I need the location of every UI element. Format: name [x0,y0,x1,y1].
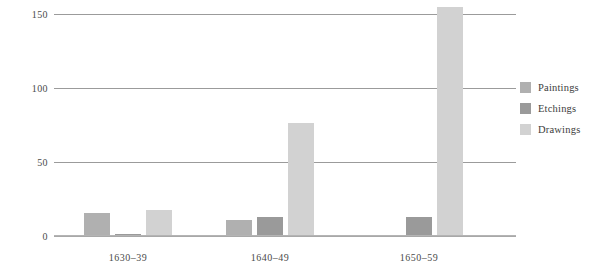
legend-label-paintings: Paintings [538,82,579,93]
x-axis-line [54,236,516,237]
bar-paintings-1640-49 [226,220,252,235]
x-tick-label-1630-39: 1630–39 [109,252,148,263]
bars-layer [54,14,516,236]
legend: Paintings Etchings Drawings [520,78,604,141]
bar-etchings-1630-39 [115,234,141,235]
bar-paintings-1630-39 [84,213,110,235]
y-axis: 150 100 50 0 [0,0,48,273]
legend-item-etchings[interactable]: Etchings [520,99,604,117]
bar-drawings-1650-59 [437,7,463,235]
bar-etchings-1640-49 [257,217,283,235]
y-tick-label-150: 150 [8,9,48,20]
legend-swatch-paintings [520,82,531,93]
legend-swatch-drawings [520,124,531,135]
y-tick-label-50: 50 [8,157,48,168]
x-tick-label-1640-49: 1640–49 [251,252,290,263]
y-tick-label-0: 0 [8,231,48,242]
bar-drawings-1630-39 [146,210,172,235]
bar-etchings-1650-59 [406,217,432,235]
legend-item-paintings[interactable]: Paintings [520,78,604,96]
legend-item-drawings[interactable]: Drawings [520,120,604,138]
legend-swatch-etchings [520,103,531,114]
bar-drawings-1640-49 [288,123,314,235]
legend-label-drawings: Drawings [538,124,580,135]
bar-chart: 150 100 50 0 1630–39 1640–49 1650–59 Pai… [0,0,607,273]
plot-area [54,14,516,236]
x-tick-label-1650-59: 1650–59 [400,252,439,263]
y-tick-label-100: 100 [8,83,48,94]
legend-label-etchings: Etchings [538,103,576,114]
